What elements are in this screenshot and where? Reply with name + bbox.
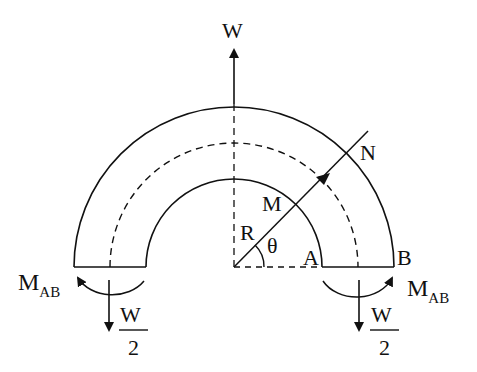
angle-label: θ (267, 233, 278, 258)
left-moment-arc (78, 278, 144, 295)
point-n-label: N (360, 140, 376, 165)
left-reaction-denominator: 2 (128, 335, 139, 360)
radius-label: R (240, 220, 255, 245)
left-moment-label: MAB (18, 269, 60, 300)
right-moment-arc (323, 278, 392, 297)
left-reaction-numerator: W (120, 302, 141, 327)
right-reaction-numerator: W (371, 302, 392, 327)
right-reaction-denominator: 2 (379, 335, 390, 360)
right-moment-label: MAB (407, 275, 449, 306)
radial-arrow-icon (316, 173, 330, 185)
ring-diagram: W N M R θ A B MAB W 2 MAB W 2 (0, 0, 477, 372)
point-m-label: M (262, 191, 282, 216)
point-a-label: A (303, 245, 319, 270)
load-label-w: W (222, 18, 243, 43)
angle-arc (255, 245, 264, 267)
radial-line (234, 131, 368, 267)
point-b-label: B (397, 245, 412, 270)
